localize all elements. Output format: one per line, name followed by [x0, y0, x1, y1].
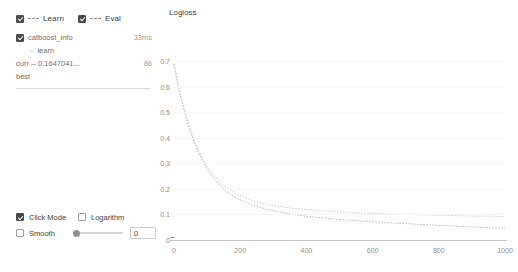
- smooth-checkbox[interactable]: [16, 229, 24, 237]
- y-zero-tick: [170, 237, 175, 238]
- dashed-line-icon: [90, 18, 101, 20]
- legend-checkbox-learn[interactable]: [16, 15, 24, 23]
- list-item[interactable]: curr -- 0.1647041... 86: [16, 57, 152, 70]
- curr-metric-label: curr -- 0.1647041...: [16, 59, 80, 68]
- dashed-line-icon: [28, 18, 39, 20]
- click-mode-checkbox[interactable]: [16, 213, 24, 221]
- x-tick-label: 600: [367, 247, 379, 254]
- control-panel: Learn Eval catboost_info 33ms -- learn c…: [0, 0, 160, 272]
- gridline: [174, 189, 505, 190]
- chart-title: Logloss: [169, 8, 197, 17]
- curve-svg: [174, 56, 505, 240]
- y-tick-label: 0.4: [160, 134, 170, 141]
- gridline: [174, 138, 505, 139]
- chart: Logloss 00.10.20.30.40.50.60.7 020040060…: [160, 0, 518, 272]
- plot-area[interactable]: [174, 56, 505, 240]
- legend-label-learn: Learn: [43, 14, 64, 23]
- list-item[interactable]: catboost_info 33ms: [16, 31, 152, 44]
- series-line-learn: [174, 64, 505, 228]
- x-tick-label: 1000: [497, 247, 513, 254]
- x-tick-label: 800: [433, 247, 445, 254]
- gridline: [174, 163, 505, 164]
- y-tick-label: 0.3: [160, 160, 170, 167]
- x-tick-label: 400: [301, 247, 313, 254]
- logarithm-label: Logarithm: [91, 213, 124, 222]
- smooth-toggle[interactable]: Smooth: [16, 229, 73, 238]
- y-tick-label: 0.6: [160, 83, 170, 90]
- logarithm-toggle[interactable]: Logarithm: [78, 213, 124, 222]
- smooth-label: Smooth: [29, 229, 55, 238]
- legend-checkbox-eval[interactable]: [78, 15, 86, 23]
- y-tick-label: 0.5: [160, 109, 170, 116]
- legend: Learn Eval: [16, 14, 121, 23]
- catboost-info-label: catboost_info: [28, 33, 73, 42]
- smooth-slider[interactable]: [73, 228, 123, 238]
- logarithm-checkbox[interactable]: [78, 213, 86, 221]
- x-axis-line: [170, 240, 507, 241]
- x-tick-label: 0: [172, 247, 176, 254]
- y-tick-label: 0.1: [160, 211, 170, 218]
- legend-item-eval[interactable]: Eval: [78, 14, 121, 23]
- legend-item-learn[interactable]: Learn: [16, 14, 64, 23]
- click-mode-label: Click Mode: [29, 213, 66, 222]
- gridline: [174, 112, 505, 113]
- learn-label: learn: [37, 46, 54, 55]
- list-item[interactable]: -- learn: [16, 44, 152, 57]
- catboost-info-duration: 33ms: [130, 33, 152, 42]
- curr-iteration-value: 86: [140, 59, 152, 68]
- x-tick-label: 200: [234, 247, 246, 254]
- y-tick-label: 0.2: [160, 185, 170, 192]
- chart-options: Click Mode Logarithm Smooth 0: [16, 209, 156, 241]
- slider-track[interactable]: [73, 232, 123, 234]
- gridline: [174, 61, 505, 62]
- info-tree: catboost_info 33ms -- learn curr -- 0.16…: [16, 31, 152, 83]
- gridline: [174, 214, 505, 215]
- list-item[interactable]: best: [16, 70, 152, 83]
- smooth-value-input[interactable]: 0: [130, 227, 156, 239]
- catboost-info-checkbox[interactable]: [16, 34, 24, 42]
- click-mode-toggle[interactable]: Click Mode: [16, 213, 78, 222]
- y-tick-label: 0.7: [160, 58, 170, 65]
- panel-divider: [16, 88, 150, 89]
- x-axis-labels: 02004006008001000: [174, 247, 505, 259]
- slider-thumb[interactable]: [73, 230, 80, 237]
- legend-label-eval: Eval: [105, 14, 121, 23]
- dash-prefix-icon: --: [29, 46, 33, 55]
- best-label: best: [16, 72, 30, 81]
- gridline: [174, 87, 505, 88]
- y-axis-labels: 00.10.20.30.40.50.60.7: [160, 56, 170, 240]
